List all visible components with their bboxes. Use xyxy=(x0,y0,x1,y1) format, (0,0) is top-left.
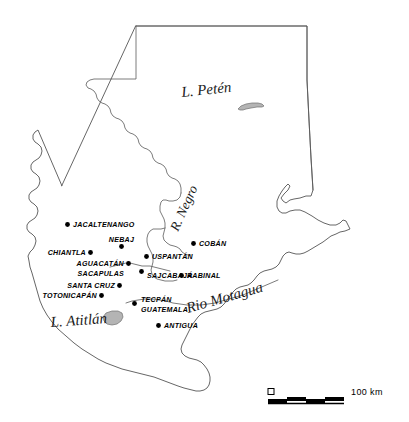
city-dot-tecpan-guatemala xyxy=(132,301,137,306)
city-label-antigua: ANTIGUA xyxy=(163,322,198,330)
city-dot-sajcabaja xyxy=(139,269,144,274)
city-label-chiantla: CHIANTLA xyxy=(48,249,86,257)
scale-bar-segment-2 xyxy=(287,397,306,401)
city-label-uspantan: USPANTÁN xyxy=(152,252,194,261)
city-dot-totonicapan xyxy=(99,293,104,298)
scale-bar: 0 100 km xyxy=(268,386,383,404)
city-dot-coban xyxy=(191,241,196,246)
city-label-totonicapan: TOTONICAPÁN xyxy=(42,291,97,300)
scale-bar-segment-1 xyxy=(268,399,287,403)
city-label-coban: COBÁN xyxy=(199,239,227,248)
city-dot-antigua xyxy=(156,323,161,328)
city-label-sacapulas: SACAPULAS xyxy=(78,270,124,278)
city-label-guatemala: GUATEMALA xyxy=(141,306,188,314)
city-label-santa-cruz: SANTA CRUZ xyxy=(67,282,115,290)
city-label-nebaj: NEBAJ xyxy=(109,236,135,244)
scale-bar-max-label: 100 km xyxy=(351,387,383,397)
city-dot-aguacatan xyxy=(126,261,131,266)
map-canvas: JACALTENANGO NEBAJ CHIANTLA COBÁN USPANT… xyxy=(0,0,409,422)
city-dot-chiantla xyxy=(88,250,93,255)
city-label-sajcabaja: SAJCABAJÁ xyxy=(147,271,193,280)
city-dot-jacaltenango xyxy=(65,222,70,227)
city-dot-santa-cruz xyxy=(117,283,122,288)
city-label-tecpan: TECPÁN xyxy=(141,295,172,304)
city-dot-uspantan xyxy=(144,254,149,259)
city-dot-nebaj xyxy=(119,244,124,249)
scale-bar-segment-3 xyxy=(306,399,325,403)
city-label-jacaltenango: JACALTENANGO xyxy=(73,221,135,229)
city-label-rabinal: RABINAL xyxy=(187,272,221,280)
city-label-aguacatan: AGUACATÁN xyxy=(76,259,125,268)
scale-bar-segment-4 xyxy=(325,397,344,401)
guatemala-map: JACALTENANGO NEBAJ CHIANTLA COBÁN USPANT… xyxy=(0,0,409,422)
